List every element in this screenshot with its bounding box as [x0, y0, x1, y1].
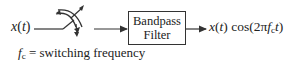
rotating-switch-icon: [56, 5, 84, 37]
input-signal-label: x(t): [11, 19, 30, 35]
filter-label-line1: Bandpass: [129, 14, 185, 28]
switching-frequency-note: fc = switching frequency: [18, 45, 145, 61]
filter-label-line2: Filter: [129, 28, 185, 42]
switch-arm: [63, 20, 74, 29]
output-signal-label: x(t) cos(2πfct): [209, 19, 283, 35]
bandpass-filter-block: Bandpass Filter: [128, 11, 186, 45]
